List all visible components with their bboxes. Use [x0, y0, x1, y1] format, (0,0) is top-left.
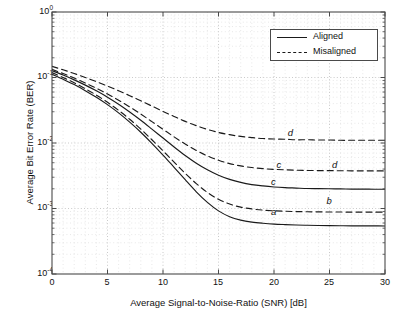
chart-figure: Average Bit Error Rate (BER) Average Sig… — [0, 0, 402, 325]
legend-label-aligned: Aligned — [313, 31, 343, 41]
legend-swatch-dashed-line — [277, 52, 307, 55]
curve-annotation-c-dashed: c — [277, 160, 282, 170]
curve-annotation-b: b — [327, 196, 332, 206]
curve-annotation-d-upper: d — [288, 128, 293, 138]
legend-entry-aligned: Aligned — [271, 30, 377, 46]
legend-swatch-solid-line — [277, 37, 307, 40]
curve-annotation-c-solid: c — [271, 177, 276, 187]
legend-entry-misaligned: Misaligned — [271, 45, 377, 61]
chart-legend: Aligned Misaligned — [270, 29, 378, 61]
curve-annotation-a: a — [271, 207, 276, 217]
curve-annotation-d-lower: d — [332, 160, 337, 170]
legend-label-misaligned: Misaligned — [313, 46, 356, 56]
